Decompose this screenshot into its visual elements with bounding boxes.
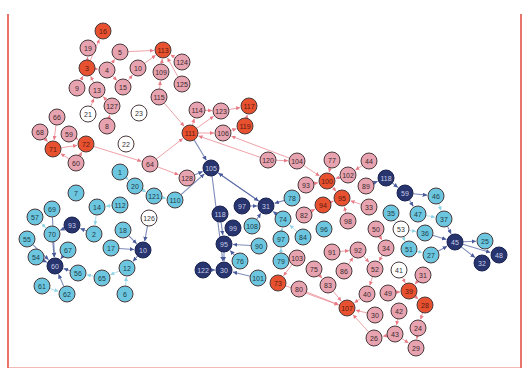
- node-117[interactable]: 117: [241, 98, 257, 114]
- node-99[interactable]: 99: [225, 220, 241, 236]
- node-15[interactable]: 15: [115, 79, 131, 95]
- node-105[interactable]: 105: [203, 160, 219, 176]
- node-43[interactable]: 43: [387, 326, 403, 342]
- node-82[interactable]: 82: [296, 207, 312, 223]
- node-124[interactable]: 124: [174, 54, 190, 70]
- node-100[interactable]: 100: [319, 173, 335, 189]
- node-31[interactable]: 31: [258, 198, 274, 214]
- node-69[interactable]: 69: [44, 201, 60, 217]
- node-77[interactable]: 77: [324, 152, 340, 168]
- node-33[interactable]: 33: [361, 199, 377, 215]
- node-90[interactable]: 90: [251, 238, 267, 254]
- node-107[interactable]: 107: [339, 300, 355, 316]
- node-121[interactable]: 121: [146, 188, 162, 204]
- node-104[interactable]: 104: [289, 153, 305, 169]
- node-26[interactable]: 26: [366, 330, 382, 346]
- node-102[interactable]: 102: [340, 167, 356, 183]
- node-66[interactable]: 66: [49, 109, 65, 125]
- node-27[interactable]: 27: [423, 247, 439, 263]
- node-30[interactable]: 30: [367, 307, 383, 323]
- node-14[interactable]: 14: [89, 199, 105, 215]
- node-68[interactable]: 68: [32, 124, 48, 140]
- node-112[interactable]: 112: [112, 197, 128, 213]
- node-97[interactable]: 97: [234, 198, 250, 214]
- node-59[interactable]: 59: [61, 126, 77, 142]
- node-36[interactable]: 36: [417, 225, 433, 241]
- node-61[interactable]: 61: [34, 278, 50, 294]
- node-89[interactable]: 89: [358, 178, 374, 194]
- node-98[interactable]: 98: [340, 213, 356, 229]
- node-125[interactable]: 125: [174, 76, 190, 92]
- node-95b[interactable]: 95: [216, 236, 232, 252]
- node-34[interactable]: 34: [378, 240, 394, 256]
- node-52[interactable]: 52: [367, 261, 383, 277]
- node-6[interactable]: 6: [117, 286, 133, 302]
- node-126[interactable]: 126: [141, 210, 157, 226]
- node-20[interactable]: 20: [127, 178, 143, 194]
- node-92[interactable]: 92: [350, 242, 366, 258]
- node-39[interactable]: 39: [401, 283, 417, 299]
- node-16[interactable]: 16: [95, 23, 111, 39]
- node-61b[interactable]: 51: [401, 241, 417, 257]
- node-23[interactable]: 23: [131, 105, 147, 121]
- node-1[interactable]: 1: [112, 164, 128, 180]
- node-84[interactable]: 84: [295, 229, 311, 245]
- node-67[interactable]: 67: [60, 242, 76, 258]
- node-83[interactable]: 83: [320, 277, 336, 293]
- node-72[interactable]: 72: [78, 136, 94, 152]
- node-111[interactable]: 111: [182, 125, 198, 141]
- node-120[interactable]: 120: [260, 152, 276, 168]
- node-94[interactable]: 94: [315, 197, 331, 213]
- node-30b[interactable]: 30: [216, 262, 232, 278]
- node-57[interactable]: 57: [27, 209, 43, 225]
- node-2[interactable]: 2: [86, 226, 102, 242]
- node-91[interactable]: 91: [324, 244, 340, 260]
- node-110[interactable]: 110: [167, 192, 183, 208]
- node-65[interactable]: 65: [94, 270, 110, 286]
- node-96[interactable]: 96: [316, 221, 332, 237]
- node-93b[interactable]: 93: [64, 217, 80, 233]
- node-73[interactable]: 73: [270, 275, 286, 291]
- node-93[interactable]: 93: [298, 177, 314, 193]
- node-22[interactable]: 22: [118, 136, 134, 152]
- node-76[interactable]: 76: [232, 253, 248, 269]
- node-3[interactable]: 3: [79, 60, 95, 76]
- node-28b[interactable]: 28: [417, 297, 433, 313]
- node-49[interactable]: 49: [380, 285, 396, 301]
- node-32[interactable]: 32: [474, 255, 490, 271]
- node-103[interactable]: 103: [289, 250, 305, 266]
- node-8[interactable]: 8: [99, 118, 115, 134]
- node-4[interactable]: 4: [99, 62, 115, 78]
- node-60[interactable]: 60: [68, 155, 84, 171]
- node-108[interactable]: 108: [244, 218, 260, 234]
- node-123[interactable]: 123: [213, 103, 229, 119]
- node-44[interactable]: 44: [361, 153, 377, 169]
- node-12[interactable]: 12: [119, 260, 135, 276]
- node-95[interactable]: 95: [334, 190, 350, 206]
- node-48[interactable]: 48: [491, 247, 507, 263]
- node-31b[interactable]: 31: [415, 267, 431, 283]
- node-79[interactable]: 79: [273, 253, 289, 269]
- node-10[interactable]: 10: [130, 60, 146, 76]
- node-9[interactable]: 9: [69, 80, 85, 96]
- node-127[interactable]: 127: [104, 98, 120, 114]
- node-7[interactable]: 7: [68, 185, 84, 201]
- node-50[interactable]: 50: [368, 221, 384, 237]
- node-5[interactable]: 5: [112, 44, 128, 60]
- node-35[interactable]: 35: [383, 205, 399, 221]
- node-101[interactable]: 101: [250, 270, 266, 286]
- node-40[interactable]: 40: [359, 286, 375, 302]
- node-53[interactable]: 53: [393, 221, 409, 237]
- node-71[interactable]: 71: [45, 141, 61, 157]
- node-119[interactable]: 119: [237, 118, 253, 134]
- node-78[interactable]: 78: [284, 190, 300, 206]
- node-113[interactable]: 113: [155, 42, 171, 58]
- node-64[interactable]: 64: [142, 156, 158, 172]
- node-128[interactable]: 128: [179, 170, 195, 186]
- node-97b[interactable]: 97: [273, 231, 289, 247]
- node-114[interactable]: 114: [189, 102, 205, 118]
- node-74[interactable]: 74: [275, 211, 291, 227]
- node-86[interactable]: 86: [336, 263, 352, 279]
- node-17[interactable]: 17: [103, 240, 119, 256]
- node-46[interactable]: 46: [428, 188, 444, 204]
